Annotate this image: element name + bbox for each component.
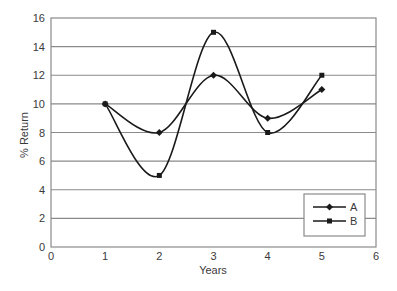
y-tick-label: 4 (39, 184, 45, 196)
x-tick-label: 6 (373, 250, 379, 262)
x-tick-label: 3 (210, 250, 216, 262)
y-tick-label: 16 (33, 12, 45, 24)
diamond-marker (210, 72, 217, 79)
legend: AB (304, 194, 365, 236)
legend-label: A (350, 201, 358, 213)
y-tick-label: 14 (33, 41, 45, 53)
square-marker (211, 30, 216, 35)
y-tick-label: 12 (33, 69, 45, 81)
y-tick-label: 0 (39, 241, 45, 253)
y-tick-label: 2 (39, 212, 45, 224)
square-marker (327, 219, 332, 224)
line-chart: 0246810121416 0123456 Years % Return AB (0, 0, 397, 291)
diamond-marker (264, 115, 271, 122)
y-axis-ticks: 0246810121416 (33, 12, 45, 253)
y-tick-label: 6 (39, 155, 45, 167)
x-tick-label: 5 (319, 250, 325, 262)
diamond-marker (156, 129, 163, 136)
x-tick-label: 2 (156, 250, 162, 262)
legend-label: B (350, 215, 357, 227)
x-axis-label: Years (199, 264, 227, 276)
y-tick-label: 10 (33, 98, 45, 110)
square-marker (319, 73, 324, 78)
square-marker (265, 130, 270, 135)
square-marker (157, 173, 162, 178)
y-tick-label: 8 (39, 127, 45, 139)
square-marker (103, 101, 108, 106)
x-tick-label: 4 (265, 250, 271, 262)
x-tick-label: 0 (48, 250, 54, 262)
x-axis-ticks: 0123456 (48, 250, 379, 262)
x-tick-label: 1 (102, 250, 108, 262)
y-axis-label: % Return (18, 112, 30, 158)
